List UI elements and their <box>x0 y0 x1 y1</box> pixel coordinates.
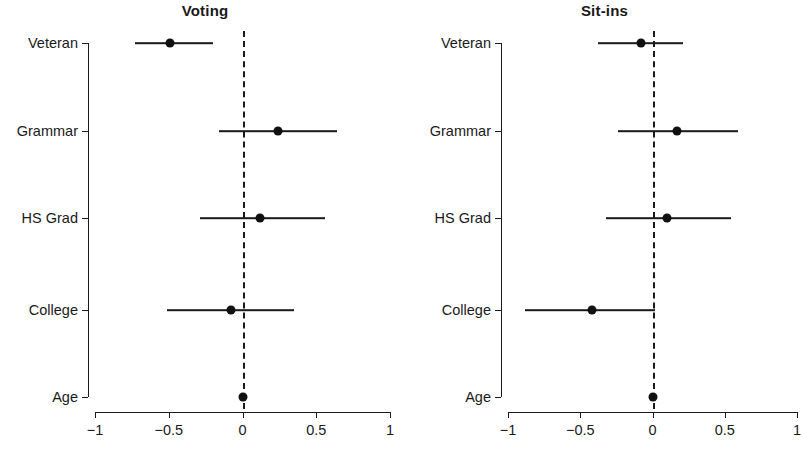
x-tick-sitins-1 <box>580 412 581 418</box>
x-axis-label-voting-0: −1 <box>87 422 104 438</box>
point-estimate-voting-grammar <box>273 127 282 136</box>
y-axis-label-veteran: Veteran <box>411 35 491 51</box>
y-axis-label-hs-grad: HS Grad <box>0 210 78 226</box>
x-tick-voting-4 <box>390 412 391 418</box>
x-axis-label-voting-3: 0.5 <box>306 422 326 438</box>
y-axis-label-grammar: Grammar <box>0 123 78 139</box>
point-estimate-voting-college <box>226 306 235 315</box>
y-tick-sitins-2 <box>495 218 501 219</box>
x-axis-label-sitins-1: −0.5 <box>566 422 595 438</box>
x-axis-label-sitins-2: 0 <box>648 422 656 438</box>
y-axis-label-college: College <box>411 302 491 318</box>
panel-sitins: Sit-ins VeteranGrammarHS GradCollegeAge−… <box>410 0 799 463</box>
y-tick-voting-4 <box>82 397 88 398</box>
y-axis-label-hs-grad: HS Grad <box>411 210 491 226</box>
x-axis-label-sitins-4: 1 <box>793 422 801 438</box>
y-axis-label-age: Age <box>0 389 78 405</box>
zero-reference-line-sitins <box>653 31 655 409</box>
point-estimate-sitins-age <box>648 393 657 402</box>
panel-title-sitins: Sit-ins <box>410 2 799 19</box>
panel-voting: Voting VeteranGrammarHS GradCollegeAge−1… <box>0 0 410 463</box>
y-tick-sitins-3 <box>495 310 501 311</box>
x-axis-label-sitins-3: 0.5 <box>715 422 735 438</box>
x-tick-sitins-0 <box>508 412 509 418</box>
point-estimate-voting-age <box>238 393 247 402</box>
x-tick-sitins-2 <box>653 412 654 418</box>
y-axis-label-grammar: Grammar <box>411 123 491 139</box>
y-axis-spine-voting <box>88 43 89 397</box>
x-axis-label-voting-2: 0 <box>238 422 246 438</box>
point-estimate-voting-hs-grad <box>256 214 265 223</box>
point-estimate-voting-veteran <box>166 39 175 48</box>
y-tick-sitins-4 <box>495 397 501 398</box>
point-estimate-sitins-hs-grad <box>662 214 671 223</box>
y-tick-sitins-1 <box>495 131 501 132</box>
y-axis-label-age: Age <box>411 389 491 405</box>
zero-reference-line-voting <box>243 31 245 409</box>
y-tick-sitins-0 <box>495 43 501 44</box>
y-tick-voting-2 <box>82 218 88 219</box>
x-axis-label-voting-4: 1 <box>386 422 394 438</box>
x-tick-sitins-4 <box>797 412 798 418</box>
x-tick-voting-2 <box>243 412 244 418</box>
y-axis-label-college: College <box>0 302 78 318</box>
point-estimate-sitins-grammar <box>673 127 682 136</box>
point-estimate-sitins-veteran <box>636 39 645 48</box>
y-tick-voting-1 <box>82 131 88 132</box>
x-tick-voting-1 <box>169 412 170 418</box>
x-axis-label-sitins-0: −1 <box>500 422 517 438</box>
point-estimate-sitins-college <box>587 306 596 315</box>
x-tick-voting-3 <box>316 412 317 418</box>
x-tick-sitins-3 <box>725 412 726 418</box>
y-axis-label-veteran: Veteran <box>0 35 78 51</box>
x-tick-voting-0 <box>95 412 96 418</box>
y-axis-spine-sitins <box>501 43 502 397</box>
panel-title-voting: Voting <box>0 2 410 19</box>
x-axis-label-voting-1: −0.5 <box>154 422 183 438</box>
y-tick-voting-0 <box>82 43 88 44</box>
y-tick-voting-3 <box>82 310 88 311</box>
